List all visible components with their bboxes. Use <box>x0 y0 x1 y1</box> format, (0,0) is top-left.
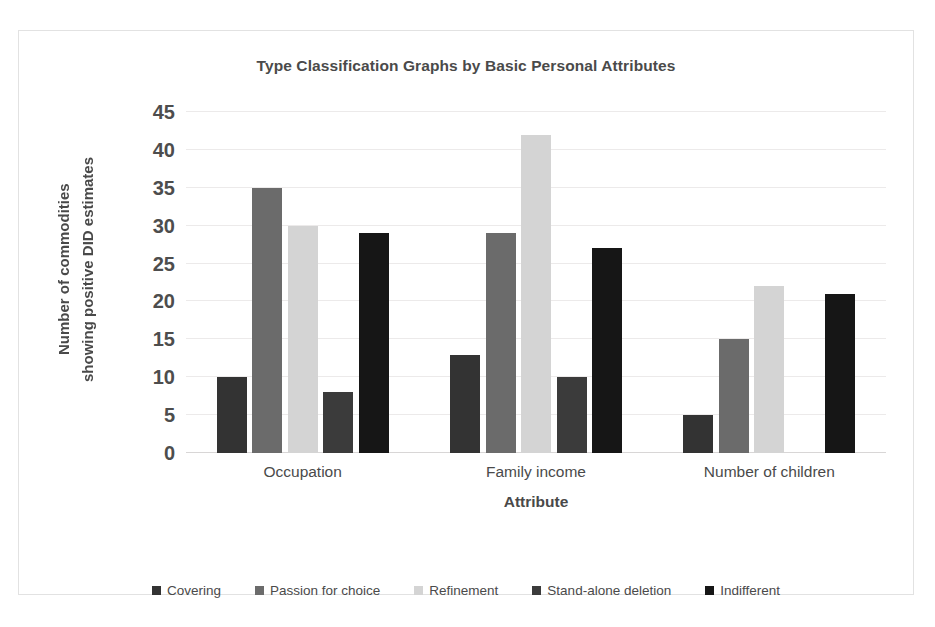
legend-label: Stand-alone deletion <box>547 583 671 598</box>
y-axis-tick-label: 30 <box>153 214 175 237</box>
legend-swatch-icon <box>152 586 161 595</box>
bar <box>719 339 749 453</box>
bar <box>450 355 480 454</box>
bar <box>592 248 622 453</box>
y-axis-tick-label: 45 <box>153 101 175 124</box>
y-axis-tick-label: 20 <box>153 290 175 313</box>
chart-title: Type Classification Graphs by Basic Pers… <box>19 57 913 75</box>
bar <box>359 233 389 453</box>
plot-area: 051015202530354045 <box>186 112 886 453</box>
legend-label: Passion for choice <box>270 583 380 598</box>
x-axis-category-label: Occupation <box>186 463 419 481</box>
chart-frame: Type Classification Graphs by Basic Pers… <box>18 30 914 595</box>
y-axis-title: Number of commodities showing positive D… <box>55 119 115 419</box>
legend-swatch-icon <box>255 586 264 595</box>
legend-item[interactable]: Covering <box>152 583 221 598</box>
y-axis-tick-label: 5 <box>164 404 175 427</box>
legend-item[interactable]: Passion for choice <box>255 583 380 598</box>
legend-swatch-icon <box>414 586 423 595</box>
legend-swatch-icon <box>705 586 714 595</box>
y-axis-tick-label: 15 <box>153 328 175 351</box>
y-axis-tick-label: 35 <box>153 176 175 199</box>
legend-label: Indifferent <box>720 583 780 598</box>
y-axis-title-line-1: Number of commodities <box>55 119 72 419</box>
bar <box>288 226 318 453</box>
legend-label: Refinement <box>429 583 498 598</box>
legend-item[interactable]: Refinement <box>414 583 498 598</box>
bar <box>521 135 551 453</box>
y-axis-title-line-2: showing positive DID estimates <box>79 119 96 419</box>
bar-group <box>217 112 389 453</box>
chart-legend: CoveringPassion for choiceRefinementStan… <box>19 583 913 598</box>
legend-item[interactable]: Indifferent <box>705 583 780 598</box>
legend-item[interactable]: Stand-alone deletion <box>532 583 671 598</box>
bar <box>754 286 784 453</box>
bar <box>683 415 713 453</box>
bar-group <box>683 112 855 453</box>
y-axis-tick-label: 0 <box>164 442 175 465</box>
bar <box>252 188 282 453</box>
x-axis-title: Attribute <box>186 493 886 511</box>
bar <box>323 392 353 453</box>
y-axis-tick-label: 25 <box>153 252 175 275</box>
bar <box>217 377 247 453</box>
bar <box>486 233 516 453</box>
legend-swatch-icon <box>532 586 541 595</box>
bars-layer <box>186 112 886 453</box>
bar <box>825 294 855 453</box>
x-axis-category-label: Number of children <box>653 463 886 481</box>
y-axis-tick-label: 10 <box>153 366 175 389</box>
bar-group <box>450 112 622 453</box>
x-axis-category-label: Family income <box>419 463 652 481</box>
y-axis-tick-label: 40 <box>153 138 175 161</box>
bar <box>557 377 587 453</box>
legend-label: Covering <box>167 583 221 598</box>
